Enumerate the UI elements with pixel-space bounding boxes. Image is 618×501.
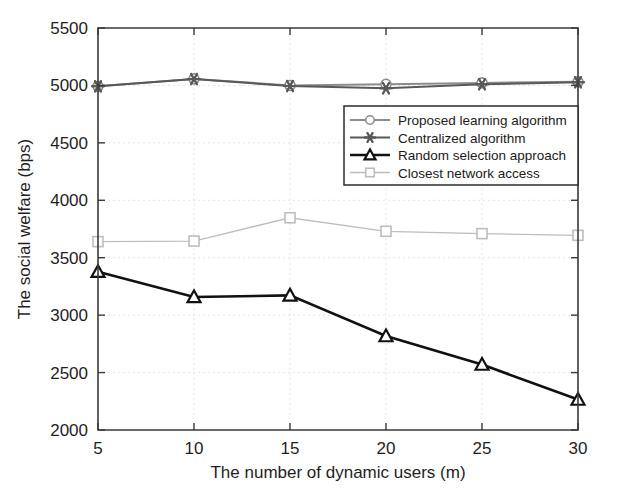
data-series	[93, 213, 583, 247]
x-tick-label: 10	[185, 439, 204, 458]
chart-plot-area: 2000250030003500400045005000550051015202…	[0, 0, 618, 501]
series-line	[98, 218, 578, 242]
grid-lines	[98, 28, 578, 430]
data-series	[92, 74, 584, 93]
square-marker	[366, 168, 375, 177]
data-series	[92, 265, 585, 405]
chart-legend[interactable]: Proposed learning algorithmCentralized a…	[344, 106, 578, 185]
series-line	[98, 272, 578, 400]
legend-label: Centralized algorithm	[398, 131, 526, 146]
series-line	[98, 79, 578, 88]
chart-figure: 2000250030003500400045005000550051015202…	[0, 0, 618, 501]
x-tick-label: 20	[377, 439, 396, 458]
y-tick-label: 3000	[50, 306, 88, 325]
y-tick-label: 5500	[50, 19, 88, 38]
square-marker	[189, 236, 199, 246]
x-tick-label: 30	[569, 439, 588, 458]
axes-layer	[98, 28, 578, 430]
x-axis-title: The number of dynamic users (m)	[210, 463, 465, 482]
y-tick-label: 4500	[50, 134, 88, 153]
square-marker	[477, 229, 487, 239]
axis-frame	[98, 28, 578, 430]
y-axis-title: The social welfare (bps)	[15, 139, 34, 319]
data-series	[93, 74, 583, 91]
legend-label: Proposed learning algorithm	[398, 113, 567, 128]
ticks-layer	[98, 28, 578, 430]
y-tick-label: 4000	[50, 191, 88, 210]
x-tick-label: 5	[93, 439, 102, 458]
legend-label: Random selection approach	[398, 148, 566, 163]
x-tick-label: 15	[281, 439, 300, 458]
y-tick-label: 2500	[50, 364, 88, 383]
square-marker	[285, 213, 295, 223]
legend-label: Closest network access	[398, 166, 540, 181]
x-tick-label: 25	[473, 439, 492, 458]
y-tick-label: 5000	[50, 76, 88, 95]
y-tick-label: 3500	[50, 249, 88, 268]
y-tick-label: 2000	[50, 421, 88, 440]
square-marker	[381, 226, 391, 236]
circle-marker	[366, 116, 375, 125]
